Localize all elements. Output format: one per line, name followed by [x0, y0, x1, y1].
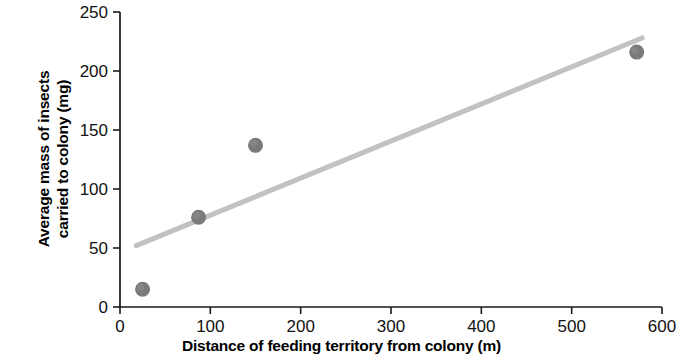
y-tick-label: 200	[80, 62, 108, 81]
trend-line-segment	[136, 38, 642, 246]
y-tick-label: 50	[89, 239, 108, 258]
data-point-highlight	[137, 284, 144, 291]
axes	[120, 12, 662, 307]
data-point	[248, 138, 263, 153]
y-tick-label: 150	[80, 121, 108, 140]
data-point	[629, 45, 644, 60]
y-tick-label: 250	[80, 3, 108, 22]
x-tick-label: 200	[286, 317, 314, 336]
data-point	[135, 282, 150, 297]
x-tick-label: 400	[467, 317, 495, 336]
trend-line	[136, 38, 642, 246]
data-point-highlight	[631, 46, 638, 53]
x-tick-label: 600	[648, 317, 676, 336]
x-tick-label: 0	[115, 317, 124, 336]
tick-labels: 0501001502002500100200300400500600	[80, 3, 677, 336]
y-tick-label: 100	[80, 180, 108, 199]
data-point-highlight	[250, 140, 257, 147]
data-points	[135, 45, 644, 297]
x-tick-label: 300	[377, 317, 405, 336]
x-tick-label: 500	[557, 317, 585, 336]
plot-area: 0501001502002500100200300400500600	[0, 0, 683, 362]
data-point-highlight	[193, 212, 200, 219]
data-point	[191, 210, 206, 225]
tick-marks	[113, 12, 662, 314]
axis-lines	[120, 12, 662, 307]
x-tick-label: 100	[196, 317, 224, 336]
y-tick-label: 0	[99, 298, 108, 317]
scatter-chart-figure: Average mass of insects carried to colon…	[0, 0, 683, 362]
